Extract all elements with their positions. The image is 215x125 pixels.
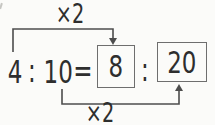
ratio-colon-left: :	[20, 55, 43, 87]
bottom-multiply-arrowhead-up-icon	[175, 84, 183, 91]
answer-box-8: 8	[97, 45, 135, 88]
answer-box-20: 20	[157, 42, 207, 82]
ratio-term-10: 10	[43, 56, 66, 88]
bottom-multiply-arrow-line	[62, 89, 179, 104]
answer-value-8: 8	[109, 51, 124, 82]
ratio-colon-right: :	[133, 54, 156, 86]
top-multiplier-label: ×2	[55, 1, 85, 27]
bottom-multiplier-label: ×2	[85, 100, 115, 125]
answer-value-20: 20	[167, 47, 196, 78]
equals-sign: =	[71, 55, 94, 87]
top-multiply-arrowhead-down-icon	[109, 38, 117, 45]
proportion-diagram: 4 : 10 = 8 : 20 ×2 ×2	[0, 0, 215, 125]
